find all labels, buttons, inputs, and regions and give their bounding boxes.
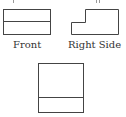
- orthographic-views: [0, 0, 126, 117]
- top-view: [39, 64, 84, 113]
- front-label: Front: [13, 39, 41, 51]
- right-side-label: Right Side: [68, 39, 121, 51]
- right-side-outline: [72, 10, 119, 35]
- right-side-view: [72, 10, 119, 35]
- front-view: [4, 10, 51, 35]
- top-outline: [39, 64, 84, 113]
